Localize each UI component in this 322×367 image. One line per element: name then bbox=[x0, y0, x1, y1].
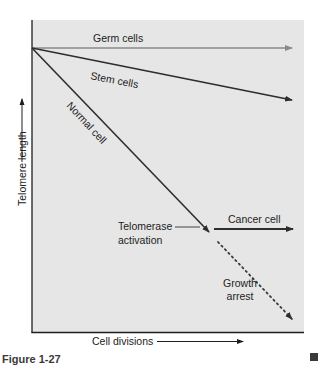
germ-cells-label: Germ cells bbox=[93, 32, 143, 44]
x-axis-label-group: Cell divisions bbox=[92, 335, 243, 347]
square-marker-icon bbox=[310, 353, 318, 361]
telomerase-label-line2: activation bbox=[118, 234, 163, 246]
plot-area bbox=[32, 20, 304, 332]
y-axis-label-group: Telomere length bbox=[16, 99, 28, 206]
growth-arrest-label-line1: Growth bbox=[223, 277, 257, 289]
telomere-diagram: Germ cells Stem cells Normal cell Telome… bbox=[0, 0, 322, 367]
figure-caption: Figure 1-27 bbox=[2, 353, 61, 365]
x-axis-label: Cell divisions bbox=[92, 335, 153, 347]
telomerase-label-line1: Telomerase bbox=[118, 220, 172, 232]
growth-arrest-label-line2: arrest bbox=[227, 290, 254, 302]
cancer-cell-label: Cancer cell bbox=[228, 213, 281, 225]
